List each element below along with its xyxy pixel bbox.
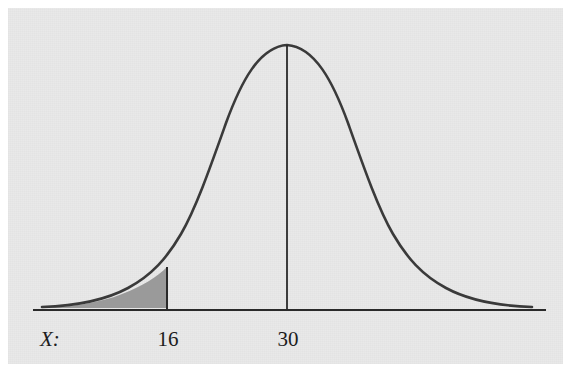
x-tick-label-16: 16	[158, 329, 179, 350]
x-tick-label-30: 30	[278, 329, 299, 350]
distribution-plot	[0, 0, 567, 371]
normal-curve-figure: X: 16 30	[0, 0, 567, 371]
x-axis-variable-label: X:	[40, 329, 60, 350]
